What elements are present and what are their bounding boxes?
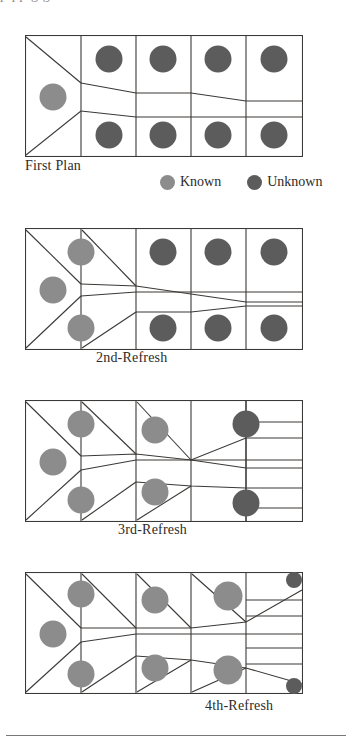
- node-unknown: [261, 239, 288, 266]
- node-known: [68, 315, 95, 342]
- caption-first-plan: First Plan: [25, 158, 81, 174]
- panel-4th-refresh: [25, 572, 303, 694]
- cut-off-text: p pp g g: [0, 0, 352, 3]
- node-known: [40, 449, 67, 476]
- panel-first-plan-graphic: [25, 35, 303, 157]
- node-known: [68, 239, 95, 266]
- node-known: [68, 661, 95, 688]
- legend-label-unknown: Unknown: [267, 174, 322, 190]
- panel-2nd-refresh: [25, 228, 303, 350]
- node-unknown: [286, 678, 302, 694]
- node-unknown: [233, 490, 260, 517]
- legend-label-known: Known: [180, 174, 221, 190]
- node-known: [40, 621, 67, 648]
- legend: Known Unknown: [160, 174, 322, 190]
- node-unknown: [261, 122, 288, 149]
- node-unknown: [96, 122, 123, 149]
- node-unknown: [286, 572, 302, 588]
- node-known: [68, 411, 95, 438]
- cut-off-text-row: p pp g g: [0, 0, 352, 13]
- panel-3rd-refresh-graphic: [25, 400, 303, 522]
- panel-3rd-refresh: [25, 400, 303, 522]
- node-known: [142, 479, 169, 506]
- panel-4th-refresh-graphic: [25, 572, 303, 694]
- node-unknown: [205, 239, 232, 266]
- node-unknown: [205, 315, 232, 342]
- node-unknown: [261, 315, 288, 342]
- node-known: [214, 582, 243, 611]
- node-known: [68, 487, 95, 514]
- node-unknown: [150, 46, 177, 73]
- node-known: [214, 656, 243, 685]
- caption-4th-refresh: 4th-Refresh: [205, 698, 273, 714]
- node-unknown: [205, 46, 232, 73]
- node-known: [142, 417, 169, 444]
- node-unknown: [205, 122, 232, 149]
- caption-3rd-refresh: 3rd-Refresh: [118, 522, 187, 538]
- node-known: [68, 581, 95, 608]
- node-unknown: [233, 411, 260, 438]
- caption-2nd-refresh: 2nd-Refresh: [96, 350, 167, 366]
- node-known: [142, 655, 169, 682]
- node-unknown: [150, 122, 177, 149]
- unknown-swatch-icon: [247, 175, 262, 190]
- node-known: [40, 277, 67, 304]
- node-unknown: [150, 315, 177, 342]
- panel-2nd-refresh-graphic: [25, 228, 303, 350]
- node-known: [40, 84, 67, 111]
- legend-item-known: Known: [160, 174, 221, 190]
- node-unknown: [96, 46, 123, 73]
- node-unknown: [150, 239, 177, 266]
- figure-page: p pp g g: [0, 0, 352, 749]
- legend-item-unknown: Unknown: [247, 174, 322, 190]
- node-unknown: [261, 46, 288, 73]
- bottom-rule: [6, 735, 346, 736]
- panel-first-plan: [25, 35, 303, 157]
- node-known: [142, 587, 169, 614]
- known-swatch-icon: [160, 175, 175, 190]
